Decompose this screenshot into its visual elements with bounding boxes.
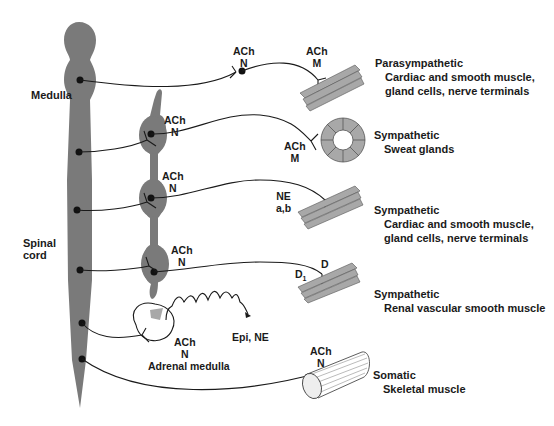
parasym-effector-receptor-label: ACh M (306, 45, 328, 69)
cardiac-effector-receptor-label: NE a,b (276, 190, 291, 214)
spinal-cord-label: Spinal cord (23, 237, 56, 261)
parasym-ganglion-receptor-label: ACh N (233, 45, 255, 69)
chromaffin-cell-shape (150, 308, 163, 320)
adrenal-receptor-label: ACh N (174, 336, 196, 360)
target-somatic: Somatic Skeletal muscle (373, 368, 466, 396)
sweat-gland (321, 118, 365, 162)
smooth-muscle-2 (298, 186, 363, 229)
renal-effector-transmitter-label: D (321, 258, 329, 270)
renal-effector-receptor-label: D1 (295, 268, 307, 285)
renal-ganglion-receptor-label: ACh N (171, 244, 193, 268)
nerve-fibers (77, 63, 333, 390)
adrenal-medulla-label: Adrenal medulla (148, 360, 230, 372)
medulla-label: Medulla (31, 89, 72, 101)
smooth-muscle-3 (298, 263, 360, 303)
sweat-effector-receptor-label: ACh M (284, 140, 306, 164)
spinal-cord-label-line1: Spinal (23, 237, 56, 249)
spinal-cord-label-line2: cord (23, 249, 47, 261)
target-parasympathetic: Parasympathetic Cardiac and smooth muscl… (375, 56, 535, 98)
ganglion-3 (141, 245, 169, 283)
target-sympathetic-sweat: Sympathetic Sweat glands (374, 128, 454, 156)
target-sympathetic-cardiac: Sympathetic Cardiac and smooth muscle, g… (374, 203, 534, 245)
released-hormones-label: Epi, NE (232, 331, 269, 343)
target-sympathetic-renal: Sympathetic Renal vascular smooth muscle (374, 287, 545, 315)
sweat-ganglion-receptor-label: ACh N (164, 114, 186, 138)
somatic-receptor-label: ACh N (310, 345, 332, 369)
cardiac-ganglion-receptor-label: ACh N (162, 170, 184, 194)
